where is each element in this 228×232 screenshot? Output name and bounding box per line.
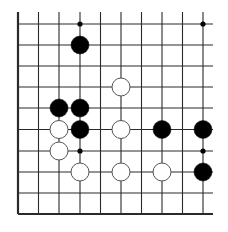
- white-stone[interactable]: [153, 163, 171, 181]
- white-stone[interactable]: [50, 121, 68, 139]
- white-stone[interactable]: [112, 163, 130, 181]
- black-stone[interactable]: [153, 121, 171, 139]
- star-point-icon: [200, 21, 205, 26]
- white-stone[interactable]: [50, 142, 68, 160]
- go-board[interactable]: [0, 0, 228, 232]
- star-point-icon: [77, 148, 82, 153]
- board-grid: [18, 12, 213, 214]
- black-stone[interactable]: [194, 163, 212, 181]
- black-stone[interactable]: [71, 36, 89, 54]
- black-stone[interactable]: [71, 99, 89, 117]
- white-stone[interactable]: [112, 78, 130, 96]
- black-stone[interactable]: [71, 121, 89, 139]
- black-stone[interactable]: [194, 121, 212, 139]
- black-stone[interactable]: [50, 99, 68, 117]
- white-stone[interactable]: [112, 121, 130, 139]
- white-stone[interactable]: [71, 163, 89, 181]
- star-point-icon: [77, 21, 82, 26]
- star-point-icon: [200, 148, 205, 153]
